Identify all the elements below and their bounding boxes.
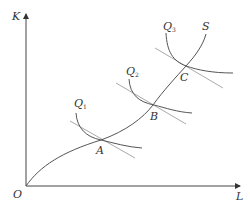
expansion-path-s bbox=[26, 34, 206, 186]
point-b-label: B bbox=[149, 110, 158, 123]
y-axis-label: K bbox=[11, 10, 21, 23]
isoquant-diagram: K L O S Q1 Q2 Q3 A B C bbox=[0, 0, 250, 212]
expansion-path-label: S bbox=[202, 20, 210, 33]
isoquant-q2-label: Q2 bbox=[126, 65, 139, 78]
isoquant-q3 bbox=[166, 33, 233, 73]
origin-label: O bbox=[13, 188, 22, 201]
point-a-label: A bbox=[95, 144, 104, 157]
isocost-line-c bbox=[155, 48, 223, 88]
isoquant-q1-label: Q1 bbox=[74, 97, 87, 110]
isoquant-q3-label: Q3 bbox=[163, 20, 176, 33]
x-axis-label: L bbox=[235, 190, 243, 203]
point-c-label: C bbox=[180, 71, 189, 84]
